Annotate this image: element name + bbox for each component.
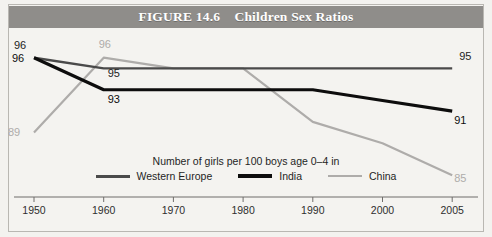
- data-label: 93: [108, 93, 120, 105]
- legend-caption: Number of girls per 100 boys age 0–4 in: [0, 155, 492, 167]
- chart-svg: [0, 0, 492, 237]
- legend-label: India: [279, 170, 302, 182]
- x-axis-tick-label: 1990: [301, 204, 324, 216]
- legend-item-china[interactable]: China: [328, 170, 396, 182]
- x-axis-tick-label: 1950: [22, 204, 45, 216]
- x-axis-tick-label: 1960: [92, 204, 115, 216]
- x-axis-tick-label: 2005: [441, 204, 464, 216]
- figure-container: FIGURE 14.6 Children Sex Ratios 96968996…: [0, 0, 492, 237]
- data-label: 96: [14, 39, 26, 51]
- legend-line-swatch: [96, 175, 130, 178]
- legend-line-swatch: [238, 174, 272, 177]
- x-axis: [14, 197, 478, 202]
- data-label: 95: [459, 50, 471, 62]
- x-axis-tick-label: 2000: [371, 204, 394, 216]
- data-label: 95: [108, 67, 120, 79]
- legend-label: Western Europe: [137, 170, 213, 182]
- legend-line-swatch: [328, 175, 362, 178]
- data-label: 89: [8, 126, 20, 138]
- x-axis-tick-label: 1980: [231, 204, 254, 216]
- chart-plot-area: 969689969593959185 195019601970198019902…: [0, 0, 492, 237]
- data-label: 91: [454, 114, 466, 126]
- x-axis-tick-label: 1970: [162, 204, 185, 216]
- data-label: 96: [99, 38, 111, 50]
- series-line-western-europe: [34, 58, 452, 69]
- legend-item-india[interactable]: India: [238, 170, 302, 182]
- legend-item-western-europe[interactable]: Western Europe: [96, 170, 213, 182]
- chart-legend: Western EuropeIndiaChina: [0, 170, 492, 182]
- data-label: 96: [12, 52, 24, 64]
- legend-label: China: [369, 170, 396, 182]
